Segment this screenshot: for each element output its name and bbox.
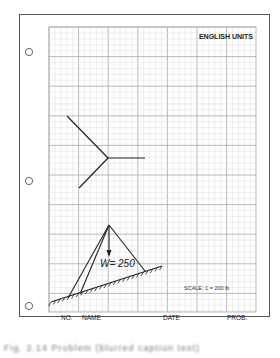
figure-caption: Fig. 2.14 Problem (blurred caption text) <box>4 343 274 353</box>
header-label: ENGLISH UNITS <box>199 33 253 40</box>
load-label: W= 250 <box>100 258 135 269</box>
worksheet: ENGLISH UNITS W= 250 SCALE: 1 = 200 lb N… <box>0 0 280 358</box>
footer-no-label: NO. <box>61 314 73 321</box>
footer-name-label: NAME <box>82 314 101 321</box>
scale-label: SCALE: 1 = 200 lb <box>184 285 229 291</box>
footer-date-label: DATE <box>163 314 181 321</box>
footer-prob-label: PROB. <box>227 314 247 321</box>
